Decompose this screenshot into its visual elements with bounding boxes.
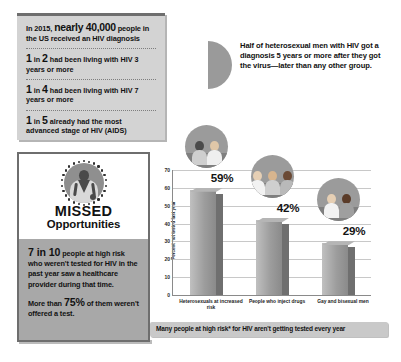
missed-subtitle: Opportunities (19, 218, 148, 230)
photo-person (251, 171, 265, 195)
divider-2 (26, 79, 156, 80)
photo-person-body (192, 150, 207, 165)
chart-bar-value-label: 59% (188, 171, 256, 184)
y-axis-tick-label: 20 (164, 256, 170, 262)
chart-caption-text: Many people at high risk* for HIV aren't… (150, 322, 388, 332)
ring-dot (105, 179, 107, 181)
missed-opportunities-header: MISSED Opportunities (19, 154, 148, 232)
stat-row-3-num1: 1 (26, 114, 32, 126)
stat-row-2-num2: 4 (42, 83, 48, 95)
chart-bar-face (322, 243, 348, 295)
stethoscope-bell (90, 194, 96, 200)
ring-dot (97, 165, 99, 167)
chart-bar[interactable]: Heterosexuals at increased risk (190, 190, 232, 295)
missed-p2-stat: 75% (64, 296, 85, 308)
ring-dot (65, 194, 67, 196)
stat-row-2-num1: 1 (26, 83, 32, 95)
photo-person-body (207, 150, 222, 165)
missed-p2-prefix: More than (28, 299, 62, 308)
missed-p1-stat: 7 in 10 (28, 246, 60, 258)
y-axis-tick-label: 50 (164, 203, 170, 209)
stats-lead-highlight: nearly 40,000 (54, 22, 115, 33)
chart-caption-banner: Many people at high risk* for HIV aren't… (150, 322, 388, 337)
doctor-icon (61, 160, 107, 206)
half-of-heterosexual-men-callout: Half of heterosexual men with HIV got a … (208, 41, 388, 103)
photo-person (324, 194, 339, 218)
photo-person (265, 171, 280, 195)
chart-bar-face (256, 220, 282, 295)
stats-lead-text: In 2015, nearly 40,000 people in the US … (26, 23, 156, 43)
chart-bar-top (256, 218, 289, 222)
photo-person (339, 194, 354, 218)
chart-bar-side (216, 194, 223, 295)
x-axis-category-label: People who inject drugs (244, 299, 310, 305)
y-axis-tick-label: 40 (164, 221, 170, 227)
chart-bar[interactable]: People who inject drugs (256, 220, 298, 295)
photo-person-body (280, 180, 294, 195)
chart-bar-side (348, 247, 355, 295)
y-axis-tick-label: 70 (164, 167, 170, 173)
chart-bar-side (282, 224, 289, 295)
infographic-canvas: In 2015, nearly 40,000 people in the US … (0, 0, 401, 362)
divider-1 (26, 48, 156, 49)
missed-paragraph-1: 7 in 10 people at high risk who weren't … (28, 247, 139, 290)
hiv-testing-bar-chart: Percent not tested last year 01020304050… (150, 150, 388, 340)
stats-lead-prefix: In 2015, (26, 24, 52, 33)
y-axis-tick-label: 30 (164, 238, 170, 244)
photo-person-body (324, 203, 339, 218)
chart-bar-value-label: 42% (254, 201, 322, 214)
photo-person-body (265, 180, 280, 195)
ring-dot (93, 162, 95, 164)
ring-dot (61, 179, 63, 181)
ring-dot (103, 190, 105, 192)
chart-plot-area: 010203040506070Heterosexuals at increase… (172, 170, 371, 296)
photo-person-body (339, 203, 354, 218)
photo-person-body (251, 180, 265, 195)
chart-bar[interactable]: Gay and bisexual men (322, 243, 364, 295)
stat-row-3-mid: in (34, 117, 40, 126)
photo-person (280, 171, 294, 195)
photo-person (207, 141, 222, 165)
half-circle-icon (208, 41, 232, 89)
heterosexual-couple-photo (185, 125, 228, 168)
ring-dot (103, 174, 105, 176)
stat-row-2-mid: in (34, 86, 40, 95)
y-axis-tick-label: 0 (167, 292, 170, 298)
ring-dot (88, 161, 90, 163)
ring-dot (83, 160, 85, 162)
y-axis-tick-label: 60 (164, 185, 170, 191)
chart-bar-face (190, 190, 216, 295)
stat-row-1-num1: 1 (26, 52, 32, 64)
ring-dot (61, 185, 63, 187)
half-callout-text: Half of heterosexual men with HIV got a … (240, 41, 388, 71)
x-axis-category-label: Gay and bisexual men (310, 299, 376, 305)
missed-paragraph-2: More than 75% of them weren't offered a … (28, 297, 139, 319)
ring-dot (101, 169, 103, 171)
stat-row-1-mid: in (34, 55, 40, 64)
people-who-inject-drugs-photo (251, 155, 294, 198)
stat-row-3: 1 in 5 already had the most advanced sta… (26, 116, 156, 136)
ring-dot (105, 185, 107, 187)
stat-row-1: 1 in 2 had been living with HIV 3 years … (26, 54, 156, 74)
hiv-diagnosis-stats-panel: In 2015, nearly 40,000 people in the US … (17, 13, 165, 140)
stat-row-2: 1 in 4 had been living with HIV 7 years … (26, 85, 156, 105)
missed-opportunities-body: 7 in 10 people at high risk who weren't … (19, 239, 148, 340)
ring-dot (62, 190, 64, 192)
photo-person (192, 141, 207, 165)
divider-3 (26, 110, 156, 111)
missed-title: MISSED (19, 204, 148, 219)
missed-opportunities-panel: MISSED Opportunities 7 in 10 people at h… (17, 152, 150, 342)
gay-bisexual-men-photo (317, 178, 360, 221)
y-axis-tick-label: 10 (164, 274, 170, 280)
chart-bar-value-label: 29% (320, 224, 388, 237)
x-axis-category-label: Heterosexuals at increased risk (178, 299, 244, 311)
ring-dot (101, 194, 103, 196)
stat-row-1-num2: 2 (42, 52, 48, 64)
doctor-illustration (64, 163, 104, 203)
stat-row-3-num2: 5 (42, 114, 48, 126)
